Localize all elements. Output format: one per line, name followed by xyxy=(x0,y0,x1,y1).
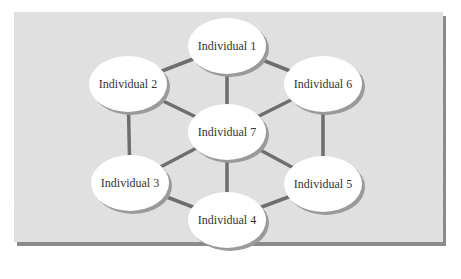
node-label: Individual 1 xyxy=(198,39,256,53)
node-label: Individual 6 xyxy=(294,77,352,91)
node-label: Individual 2 xyxy=(99,77,157,91)
node-label: Individual 5 xyxy=(294,177,352,191)
node-label: Individual 3 xyxy=(101,176,159,190)
node-label: Individual 7 xyxy=(198,125,256,139)
network-diagram: Individual 1Individual 2Individual 6Indi… xyxy=(0,0,461,279)
node-label: Individual 4 xyxy=(198,213,256,227)
